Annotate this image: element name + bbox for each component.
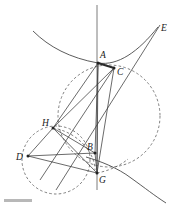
vertex-dot-C (113, 67, 116, 70)
point-label-A: A (99, 50, 106, 60)
vertex-dot-D (27, 155, 30, 158)
point-label-D: D (15, 152, 23, 162)
point-label-B: B (87, 142, 93, 152)
segment-lower-left-to-C (40, 68, 114, 180)
large-dashed-circle (58, 65, 160, 167)
small-dashed-arc-right (97, 159, 128, 173)
point-label-H: H (41, 118, 50, 128)
vertex-dot-B (94, 152, 97, 155)
vertex-dot-H (52, 127, 55, 130)
geometry-figure: A C E H D B G (0, 0, 175, 212)
point-label-C: C (117, 67, 124, 77)
vertex-dot-A (97, 62, 100, 65)
segment-D-B (28, 153, 95, 156)
point-label-G: G (99, 175, 106, 185)
point-label-E: E (160, 23, 167, 33)
footer-rule (4, 199, 32, 202)
segment-D-G (28, 156, 97, 173)
small-dashed-circle (22, 126, 90, 194)
segment-H-D (28, 128, 53, 156)
geometry-canvas: A C E H D B G (0, 0, 175, 212)
segment-A-H (53, 63, 98, 128)
segment-C-H (53, 68, 114, 128)
